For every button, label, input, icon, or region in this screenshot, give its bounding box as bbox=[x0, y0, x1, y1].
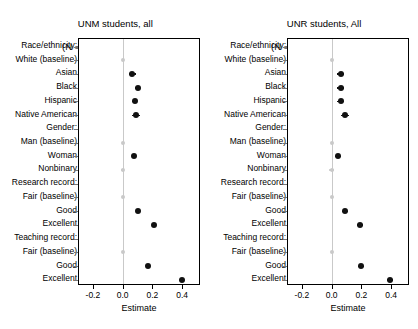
y-tick-mark bbox=[283, 101, 287, 102]
row-category-label: White (baseline) bbox=[225, 54, 286, 64]
y-tick-mark bbox=[74, 280, 78, 281]
row-category-label: Excellent bbox=[252, 218, 287, 228]
chart-row: White (baseline) bbox=[0, 52, 200, 66]
row-category-label: Woman bbox=[48, 150, 77, 160]
chart-row: Race/ethnicity: bbox=[209, 38, 409, 52]
y-tick-mark bbox=[74, 211, 78, 212]
data-point bbox=[342, 208, 348, 214]
x-tick-mark bbox=[152, 285, 153, 289]
x-tick-label: 0.4 bbox=[176, 290, 188, 300]
chart-row: Gender: bbox=[209, 120, 409, 134]
chart-row: Good bbox=[0, 258, 200, 272]
chart-row: Black bbox=[0, 79, 200, 93]
data-point bbox=[330, 141, 334, 145]
data-point bbox=[342, 112, 348, 118]
row-category-label: Fair (baseline) bbox=[23, 191, 77, 201]
row-category-label: Excellent bbox=[43, 218, 78, 228]
row-category-label: Native American bbox=[15, 109, 77, 119]
data-point bbox=[121, 250, 125, 254]
chart-row: Hispanic bbox=[0, 93, 200, 107]
y-tick-mark bbox=[74, 225, 78, 226]
row-group-label: Race/ethnicity: bbox=[230, 40, 286, 50]
row-category-label: Hispanic bbox=[253, 95, 286, 105]
row-category-label: Man (baseline) bbox=[230, 136, 286, 146]
x-tick-label: 0.0 bbox=[117, 290, 129, 300]
x-tick-label: 0.4 bbox=[385, 290, 397, 300]
data-point bbox=[335, 153, 341, 159]
chart-row: Research record: bbox=[209, 175, 409, 189]
y-tick-mark bbox=[283, 239, 287, 240]
row-category-label: Nonbinary bbox=[247, 163, 286, 173]
y-tick-mark bbox=[283, 211, 287, 212]
data-point bbox=[133, 112, 139, 118]
chart-row: Black bbox=[209, 79, 409, 93]
x-tick-mark bbox=[332, 285, 333, 289]
row-category-label: Fair (baseline) bbox=[23, 246, 77, 256]
y-tick-mark bbox=[283, 47, 287, 48]
chart-row: Woman bbox=[0, 148, 200, 162]
y-tick-mark bbox=[283, 280, 287, 281]
row-category-label: Fair (baseline) bbox=[232, 246, 286, 256]
y-tick-mark bbox=[74, 60, 78, 61]
x-tick-label: 0.2 bbox=[355, 290, 367, 300]
y-tick-mark bbox=[283, 252, 287, 253]
x-tick-mark bbox=[391, 285, 392, 289]
row-category-label: Man (baseline) bbox=[21, 136, 77, 146]
panel-unr: UNR students, All (N = 622) Race/ethnici… bbox=[209, 0, 418, 329]
x-tick-label: -0.2 bbox=[86, 290, 101, 300]
row-group-label: Gender: bbox=[46, 122, 77, 132]
y-tick-mark bbox=[74, 47, 78, 48]
row-category-label: Nonbinary bbox=[38, 163, 77, 173]
chart-row: White (baseline) bbox=[209, 52, 409, 66]
panel-unm: UNM students, all (N = 1,387) Race/ethni… bbox=[0, 0, 209, 329]
chart-row: Excellent bbox=[0, 216, 200, 230]
y-tick-mark bbox=[74, 170, 78, 171]
coefficient-plot-figure: UNM students, all (N = 1,387) Race/ethni… bbox=[0, 0, 418, 329]
row-category-label: Fair (baseline) bbox=[232, 191, 286, 201]
data-point bbox=[358, 263, 364, 269]
row-group-label: Research record: bbox=[12, 177, 77, 187]
chart-row: Fair (baseline) bbox=[209, 244, 409, 258]
data-point bbox=[129, 71, 135, 77]
y-tick-mark bbox=[74, 101, 78, 102]
chart-row: Excellent bbox=[209, 271, 409, 285]
row-category-label: Good bbox=[265, 260, 286, 270]
row-category-label: Black bbox=[56, 81, 77, 91]
category-rows-unm: Race/ethnicity:White (baseline)AsianBlac… bbox=[0, 38, 200, 285]
data-point bbox=[330, 195, 334, 199]
data-point bbox=[132, 98, 138, 104]
x-tick-mark bbox=[93, 285, 94, 289]
panel-title-line1: UNR students, All bbox=[287, 18, 361, 29]
y-tick-mark bbox=[283, 60, 287, 61]
x-tick-label: 0.2 bbox=[146, 290, 158, 300]
row-category-label: Asian bbox=[265, 67, 286, 77]
row-category-label: Good bbox=[56, 260, 77, 270]
x-tick-label: 0.0 bbox=[326, 290, 338, 300]
y-tick-mark bbox=[283, 88, 287, 89]
y-tick-mark bbox=[74, 74, 78, 75]
chart-row: Fair (baseline) bbox=[0, 189, 200, 203]
y-tick-mark bbox=[283, 143, 287, 144]
y-tick-mark bbox=[74, 184, 78, 185]
y-tick-mark bbox=[74, 88, 78, 89]
data-point bbox=[179, 277, 185, 283]
chart-row: Nonbinary bbox=[0, 161, 200, 175]
x-tick-mark bbox=[123, 285, 124, 289]
row-category-label: Black bbox=[265, 81, 286, 91]
row-category-label: Good bbox=[265, 205, 286, 215]
y-tick-mark bbox=[74, 156, 78, 157]
category-rows-unr: Race/ethnicity:White (baseline)AsianBlac… bbox=[209, 38, 409, 285]
row-category-label: Native American bbox=[224, 109, 286, 119]
y-tick-mark bbox=[283, 225, 287, 226]
y-tick-mark bbox=[74, 197, 78, 198]
y-tick-mark bbox=[283, 197, 287, 198]
data-point bbox=[338, 71, 344, 77]
chart-row: Teaching record: bbox=[0, 230, 200, 244]
y-tick-mark bbox=[283, 156, 287, 157]
data-point bbox=[135, 208, 141, 214]
row-category-label: Asian bbox=[56, 67, 77, 77]
data-point bbox=[145, 263, 151, 269]
data-point bbox=[121, 195, 125, 199]
row-group-label: Research record: bbox=[221, 177, 286, 187]
chart-row: Man (baseline) bbox=[209, 134, 409, 148]
